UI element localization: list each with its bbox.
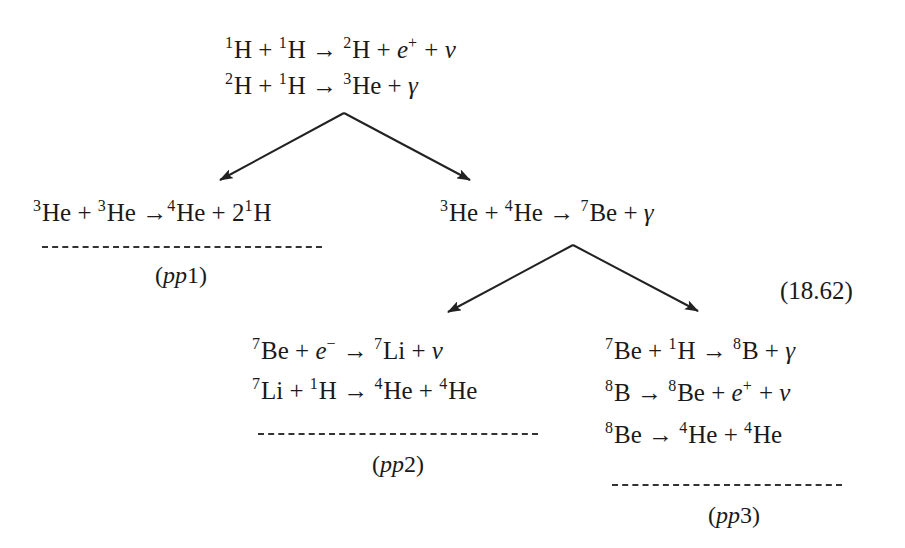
mass-number: 8 [605, 377, 613, 394]
equation-text: H + [234, 36, 279, 63]
mass-number: 7 [252, 375, 260, 392]
label-num: 2 [404, 451, 416, 477]
label-paren-close: ) [752, 502, 760, 528]
mass-number: 7 [252, 335, 260, 352]
pp3-reaction-3: 8Be → 4He + 4He [605, 422, 782, 447]
label-paren-open: ( [372, 451, 380, 477]
pp3-divider [612, 484, 842, 486]
mass-number: 3 [33, 197, 41, 214]
mass-number: 1 [279, 34, 287, 51]
equation-text: He + 2 [176, 199, 244, 226]
equation-text: He [753, 421, 782, 448]
equation-text: He + [383, 377, 439, 404]
label-num: 3 [740, 502, 752, 528]
particle-symbol: e [315, 337, 326, 364]
equation-text: He + [449, 199, 505, 226]
equation-text: H + [234, 72, 279, 99]
equation-text: H → [319, 377, 375, 404]
label-paren-open: ( [708, 502, 716, 528]
label-num: 1 [187, 262, 199, 288]
mass-number: 1 [279, 70, 287, 87]
mass-number: 3 [440, 197, 448, 214]
label-paren-open: ( [155, 262, 163, 288]
equation-text: Be → [614, 421, 679, 448]
equation-text: He → [107, 199, 167, 226]
label-paren-close: ) [416, 451, 424, 477]
mass-number: 3 [98, 197, 106, 214]
mass-number: 8 [668, 377, 676, 394]
mass-number: 7 [580, 197, 588, 214]
branch-arrows [0, 0, 905, 548]
charge-superscript: + [408, 34, 417, 51]
pp2-reaction-2: 7Li + 1H → 4He + 4He [252, 378, 477, 403]
mass-number: 1 [225, 34, 233, 51]
mass-number: 4 [167, 197, 175, 214]
equation-text: H [253, 199, 271, 226]
equation-text: He [448, 377, 477, 404]
mass-number: 1 [668, 335, 676, 352]
label-paren-close: ) [199, 262, 207, 288]
mass-number: 1 [310, 375, 318, 392]
pp3-reaction-2: 8B → 8Be + e+ + ν [605, 380, 790, 405]
arrow-start-to-branch [344, 113, 470, 180]
equation-text: He + [352, 72, 408, 99]
mass-number: 8 [733, 335, 741, 352]
equation-text: He → [514, 199, 581, 226]
label-pp: pp [716, 502, 740, 528]
equation-text: B + [742, 337, 785, 364]
mass-number: 4 [744, 419, 752, 436]
equation-text: Be + [614, 337, 668, 364]
mass-number: 7 [374, 335, 382, 352]
particle-symbol: ν [779, 379, 790, 406]
pp1-divider [42, 246, 322, 248]
equation-number: (18.62) [780, 278, 853, 303]
mass-number: 8 [605, 419, 613, 436]
pp2-label: (pp2) [372, 452, 424, 476]
start-reaction-1: 1H + 1H → 2H + e+ + ν [225, 37, 456, 62]
charge-superscript: − [326, 335, 335, 352]
pp3-reaction-1: 7Be + 1H → 8B + γ [605, 338, 795, 363]
particle-symbol: ν [445, 36, 456, 63]
equation-text: Be + [589, 199, 643, 226]
equation-text: H → [677, 337, 733, 364]
label-pp: pp [163, 262, 187, 288]
start-reaction-2: 2H + 1H → 3He + γ [225, 73, 418, 98]
particle-symbol: e [397, 36, 408, 63]
arrow-branch-to-pp2 [448, 245, 573, 312]
equation-text: + [753, 379, 780, 406]
pp1-reaction-1: 3He + 3He →4He + 21H [33, 200, 271, 225]
mass-number: 4 [679, 419, 687, 436]
mass-number: 3 [343, 70, 351, 87]
equation-text: H + [352, 36, 397, 63]
label-pp: pp [380, 451, 404, 477]
equation-text: Be + [677, 379, 731, 406]
mass-number: 1 [244, 197, 252, 214]
equation-text: He + [688, 421, 744, 448]
mass-number: 4 [439, 375, 447, 392]
equation-text: B → [614, 379, 668, 406]
equation-text: → [337, 337, 375, 364]
particle-symbol: ν [432, 337, 443, 364]
particle-symbol: e [732, 379, 743, 406]
mass-number: 2 [225, 70, 233, 87]
mass-number: 7 [605, 335, 613, 352]
equation-text: Li + [383, 337, 432, 364]
mass-number: 4 [374, 375, 382, 392]
equation-text: H → [288, 72, 344, 99]
equation-text: He + [42, 199, 98, 226]
arrow-start-to-pp1 [220, 113, 344, 180]
branch-reaction-1: 3He + 4He → 7Be + γ [440, 200, 654, 225]
particle-symbol: γ [644, 199, 654, 226]
equation-text: H → [288, 36, 344, 63]
mass-number: 2 [343, 34, 351, 51]
particle-symbol: γ [785, 337, 795, 364]
equation-text: + [418, 36, 445, 63]
particle-symbol: γ [408, 72, 418, 99]
mass-number: 4 [505, 197, 513, 214]
arrow-branch-to-pp3 [573, 245, 698, 311]
pp3-label: (pp3) [708, 503, 760, 527]
equation-text: Li + [261, 377, 310, 404]
pp1-label: (pp1) [155, 263, 207, 287]
equation-text: Be + [261, 337, 315, 364]
pp2-reaction-1: 7Be + e− → 7Li + ν [252, 338, 443, 363]
